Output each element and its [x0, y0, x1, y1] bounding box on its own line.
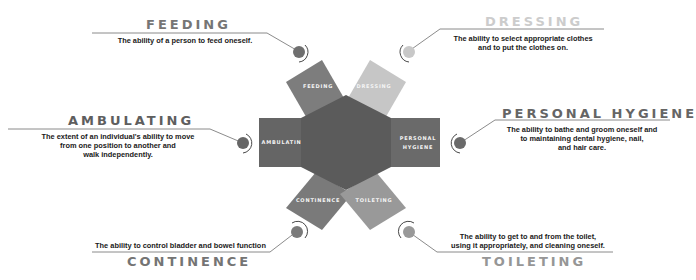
panel-personal-hygiene: PERSONAL HYGIENE	[390, 118, 440, 167]
title-personal-hygiene: PERSONAL HYGIENE	[502, 106, 696, 121]
panel-label-feeding: FEEDING	[303, 83, 333, 89]
dot-personal-hygiene	[451, 134, 466, 153]
title-toileting: TOILETING	[482, 254, 586, 269]
dot-ambulating	[237, 134, 252, 153]
panel-label-dressing: DRESSING	[357, 83, 392, 89]
description-continence: The ability to control bladder and bowel…	[88, 241, 273, 250]
description-toileting: The ability to get to and from the toile…	[443, 232, 613, 250]
description-dressing: The ability to select appropriate clothe…	[448, 34, 598, 52]
panel-label-ambulating: AMBULATING	[262, 139, 307, 145]
description-personal-hygiene: The ability to bathe and groom oneself a…	[502, 125, 662, 152]
title-ambulating: AMBULATING	[68, 113, 194, 128]
panel-label-hygiene: HYGIENE	[403, 144, 433, 150]
description-ambulating: The extent of an individual's ability to…	[38, 132, 198, 159]
panel-label-personal: PERSONAL	[400, 135, 436, 141]
title-continence: CONTINENCE	[127, 254, 251, 269]
title-dressing: DRESSING	[485, 14, 583, 29]
description-feeding: The ability of a person to feed oneself.	[110, 36, 260, 45]
dot-toileting	[398, 221, 415, 238]
title-feeding: FEEDING	[146, 17, 231, 32]
panel-label-toileting: TOILETING	[356, 197, 393, 203]
panel-label-continence: CONTINENCE	[296, 197, 340, 203]
dot-continence	[291, 221, 308, 238]
dot-feeding	[293, 45, 308, 62]
dot-dressing	[400, 45, 415, 62]
